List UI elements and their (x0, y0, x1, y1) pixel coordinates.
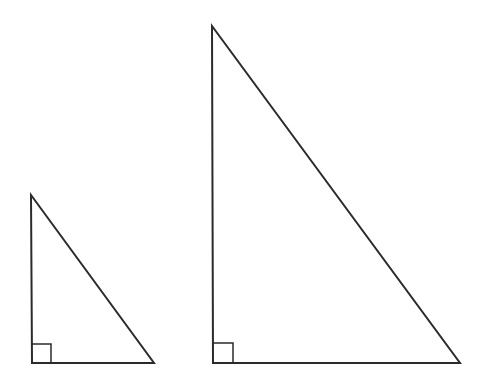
small-right-triangle (31, 195, 154, 363)
right-angle-marker-icon (213, 343, 233, 363)
large-right-triangle (212, 26, 460, 363)
diagram-canvas (0, 0, 489, 388)
small-triangle-outline (31, 195, 154, 363)
right-angle-marker-icon (32, 344, 51, 363)
large-triangle-outline (212, 26, 460, 363)
